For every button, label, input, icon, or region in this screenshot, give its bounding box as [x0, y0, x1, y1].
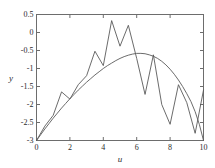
- y-tick-label: -2: [27, 100, 34, 109]
- y-axis-label: y: [8, 73, 13, 83]
- y-tick-label: -0.5: [21, 46, 34, 55]
- y-tick-label: -2.5: [21, 118, 34, 127]
- y-tick-label: -3: [27, 136, 34, 145]
- plot-svg: 02468100.50-0.5-1-1.5-2-2.5-3 u y: [0, 0, 215, 168]
- x-tick-label: 4: [101, 143, 105, 152]
- x-tick-label: 2: [68, 143, 72, 152]
- y-tick-label: -1: [27, 64, 34, 73]
- y-tick-label: 0.5: [24, 10, 34, 19]
- x-axis-label: u: [118, 154, 123, 164]
- y-tick-label: -1.5: [21, 82, 34, 91]
- y-tick-label: 0: [30, 28, 34, 37]
- x-tick-label: 0: [35, 143, 39, 152]
- x-tick-label: 10: [200, 143, 208, 152]
- x-tick-label: 8: [168, 143, 172, 152]
- chart-figure: 02468100.50-0.5-1-1.5-2-2.5-3 u y: [0, 0, 215, 168]
- x-tick-label: 6: [135, 143, 139, 152]
